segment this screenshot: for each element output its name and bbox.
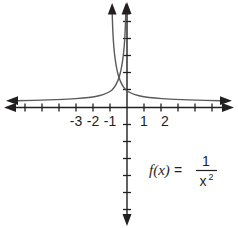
x-axis-group (4, 103, 234, 112)
equation-lhs: f(x) (149, 162, 170, 179)
x-tick-label-neg1: -1 (104, 113, 117, 129)
y-axis-arrow-down (123, 214, 132, 226)
curve-left-branch (16, 12, 126, 101)
x-tick-label-pos1: 1 (140, 113, 148, 129)
x-axis-arrow-right (222, 103, 234, 112)
equation-label: f(x) = 1 x 2 (149, 153, 217, 189)
equation-denominator-exponent: 2 (208, 172, 213, 182)
x-tick-label-neg3: -3 (70, 113, 83, 129)
curve-right-arrow-right (220, 96, 232, 105)
function-curve-group (6, 3, 232, 105)
x-axis-tick-labels: -3 -2 -1 1 2 (70, 113, 169, 129)
curve-right-branch (112, 12, 222, 101)
coordinate-plane: -3 -2 -1 1 2 f(x) = 1 x 2 (0, 0, 238, 228)
equation-denominator-base: x (200, 173, 207, 189)
equation-numerator: 1 (202, 153, 210, 169)
equation-equals-sign: = (174, 162, 182, 178)
y-axis-group (123, 2, 132, 226)
curve-right-arrow-up (108, 3, 117, 15)
x-tick-label-pos2: 2 (161, 113, 169, 129)
graph-figure: -3 -2 -1 1 2 f(x) = 1 x 2 (0, 0, 238, 228)
x-tick-label-neg2: -2 (87, 113, 100, 129)
curve-left-arrow-left (6, 96, 18, 105)
x-axis-arrow-left (4, 103, 16, 112)
